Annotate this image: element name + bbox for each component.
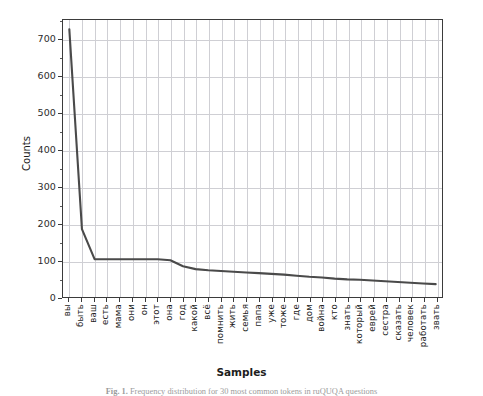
x-tick-label: человек [406, 304, 415, 342]
x-tick-mark [284, 298, 285, 302]
x-tick-mark [386, 298, 387, 302]
y-tick-label: 100 [18, 255, 56, 266]
x-tick-label: есть [101, 304, 110, 325]
x-tick-label: работать [419, 304, 428, 347]
x-tick-mark [335, 298, 336, 302]
x-tick-mark [68, 298, 69, 302]
x-tick-label: мама [114, 304, 123, 328]
x-tick-label: она [165, 304, 174, 321]
figure-caption-number: Fig. 1. [106, 387, 128, 396]
x-tick-label: знать [343, 304, 352, 331]
x-tick-mark [132, 298, 133, 302]
x-tick-mark [399, 298, 400, 302]
x-tick-label: они [127, 304, 136, 321]
x-tick-label: дом [305, 304, 314, 322]
x-tick-mark [272, 298, 273, 302]
x-tick-mark [259, 298, 260, 302]
x-tick-mark [437, 298, 438, 302]
x-tick-mark [106, 298, 107, 302]
x-tick-mark [170, 298, 171, 302]
x-tick-mark [221, 298, 222, 302]
x-tick-mark [145, 298, 146, 302]
x-tick-label: сказать [394, 304, 403, 341]
x-tick-mark [119, 298, 120, 302]
x-tick-label: какой [190, 304, 199, 332]
y-tick-label: 200 [18, 218, 56, 229]
x-tick-label: папа [254, 304, 263, 327]
x-tick-label: война [317, 304, 326, 332]
x-tick-label: вы [63, 304, 72, 316]
x-tick-mark [246, 298, 247, 302]
figure-container: Counts 0100200300400500600700 выбытьваше… [0, 0, 483, 396]
figure-caption: Fig. 1. Frequency distribution for 30 mo… [0, 387, 483, 396]
x-tick-mark [297, 298, 298, 302]
figure-caption-text: Frequency distribution for 30 most commo… [130, 387, 377, 396]
x-tick-label: жить [228, 304, 237, 328]
x-tick-label: сестра [381, 304, 390, 336]
x-tick-label: быть [76, 304, 85, 327]
x-tick-mark [233, 298, 234, 302]
x-tick-label: тоже [279, 304, 288, 328]
x-tick-label: где [292, 304, 301, 320]
x-axis-label: Samples [0, 366, 483, 378]
x-tick-mark [183, 298, 184, 302]
x-tick-mark [310, 298, 311, 302]
x-tick-mark [322, 298, 323, 302]
x-tick-label: всё [203, 304, 212, 320]
x-tick-label: он [140, 304, 149, 315]
y-tick-label: 300 [18, 181, 56, 192]
x-tick-label: звать [432, 304, 441, 330]
x-tick-mark [81, 298, 82, 302]
x-tick-label: год [178, 304, 187, 320]
x-tick-mark [373, 298, 374, 302]
y-tick-label: 500 [18, 107, 56, 118]
x-tick-label: уже [267, 304, 276, 323]
y-tick-label: 400 [18, 144, 56, 155]
y-tick-label: 0 [18, 292, 56, 303]
x-tick-label: кто [330, 304, 339, 320]
x-tick-label: ваш [89, 304, 98, 323]
y-tick-label: 700 [18, 33, 56, 44]
plot-area-wrapper: Counts 0100200300400500600700 выбытьваше… [0, 0, 483, 372]
x-tick-label: семья [241, 304, 250, 332]
y-tick-label: 600 [18, 70, 56, 81]
x-tick-label: помнить [216, 304, 225, 344]
x-tick-mark [157, 298, 158, 302]
x-tick-label: который [355, 304, 364, 344]
x-tick-mark [195, 298, 196, 302]
y-tick-mark [58, 298, 62, 299]
x-tick-mark [348, 298, 349, 302]
plot-box [62, 19, 443, 298]
x-tick-mark [411, 298, 412, 302]
x-tick-mark [360, 298, 361, 302]
x-tick-mark [208, 298, 209, 302]
x-tick-mark [94, 298, 95, 302]
x-tick-label: еврей [368, 304, 377, 332]
x-tick-label: этот [152, 304, 161, 325]
data-line-series [63, 20, 442, 297]
x-tick-mark [424, 298, 425, 302]
